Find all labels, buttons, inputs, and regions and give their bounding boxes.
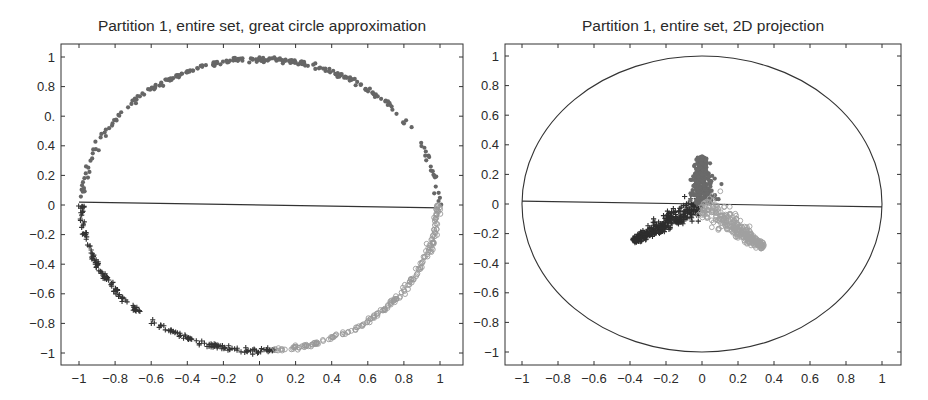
data-series — [79, 55, 444, 207]
x-tick-label: 0.2 — [729, 371, 747, 386]
y-tick-label: −0.6 — [473, 285, 499, 300]
y-tick-label: −0.2 — [29, 227, 55, 242]
y-tick-label: 1 — [492, 49, 499, 64]
x-tick-label: −0.6 — [138, 371, 164, 386]
x-tick-label: −0.4 — [174, 371, 200, 386]
left-chart: −1−0.8−0.6−0.4−0.200.20.40.60.8110.80.0.… — [29, 44, 463, 386]
y-tick-label: 0.8 — [37, 79, 55, 94]
y-tick-label: 0.8 — [481, 78, 499, 93]
x-tick-label: −0.6 — [581, 371, 607, 386]
y-tick-label: 0.6 — [481, 108, 499, 123]
y-tick-label: −0.8 — [473, 315, 499, 330]
y-tick-label: −0.6 — [29, 286, 55, 301]
y-tick-label: 0 — [48, 198, 55, 213]
x-tick-label: 0 — [256, 371, 263, 386]
x-tick-label: 0.6 — [359, 371, 377, 386]
x-tick-label: 0.4 — [765, 371, 783, 386]
y-tick-label: −0.8 — [29, 316, 55, 331]
x-tick-label: −0.2 — [653, 371, 679, 386]
x-tick-label: 0.8 — [837, 371, 855, 386]
x-tick-label: −0.4 — [617, 371, 643, 386]
x-tick-label: 0.4 — [323, 371, 341, 386]
charts-canvas: −1−0.8−0.6−0.4−0.200.20.40.60.8110.80.0.… — [0, 0, 928, 400]
x-tick-label: 1 — [878, 371, 885, 386]
y-tick-label: −0.4 — [29, 257, 55, 272]
x-tick-label: −1 — [515, 371, 530, 386]
y-tick-label: −0.4 — [473, 256, 499, 271]
y-tick-label: −0.2 — [473, 226, 499, 241]
data-series — [688, 155, 723, 206]
y-tick-label: 0.2 — [481, 167, 499, 182]
y-tick-label: 1 — [48, 50, 55, 65]
y-tick-label: −1 — [40, 346, 55, 361]
y-tick-label: 0. — [44, 109, 55, 124]
right-chart: −1−0.8−0.6−0.4−0.200.20.40.60.8110.80.60… — [473, 44, 901, 386]
y-tick-label: 0.2 — [37, 168, 55, 183]
y-tick-label: −1 — [484, 345, 499, 360]
x-tick-label: 0.8 — [395, 371, 413, 386]
x-tick-label: 0.2 — [287, 371, 305, 386]
y-tick-label: 0 — [492, 197, 499, 212]
x-tick-label: −1 — [72, 371, 87, 386]
x-tick-label: −0.8 — [545, 371, 571, 386]
x-tick-label: 1 — [436, 371, 443, 386]
y-tick-label: 0.4 — [37, 138, 55, 153]
data-series — [273, 203, 443, 353]
x-tick-label: −0.8 — [102, 371, 128, 386]
x-tick-label: 0.6 — [801, 371, 819, 386]
x-tick-label: 0 — [698, 371, 705, 386]
reference-line — [79, 202, 440, 208]
x-tick-label: −0.2 — [211, 371, 237, 386]
y-tick-label: 0.4 — [481, 137, 499, 152]
data-series — [76, 203, 277, 356]
